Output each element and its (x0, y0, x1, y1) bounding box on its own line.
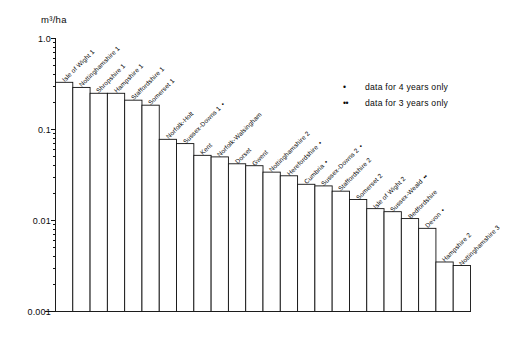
bar (194, 155, 211, 311)
bar (401, 219, 418, 312)
bar (159, 139, 176, 311)
bar (177, 144, 194, 312)
y-tick-marks (51, 39, 56, 312)
bar (453, 266, 470, 312)
bar (107, 93, 124, 311)
bar (436, 262, 453, 312)
bar (280, 176, 297, 312)
legend-label-4yr: data for 4 years only (365, 79, 448, 95)
bar (332, 191, 349, 311)
bar (367, 209, 384, 312)
bar (349, 200, 366, 312)
legend-item: •• data for 3 years only (343, 95, 448, 111)
bar (298, 184, 315, 311)
bar (142, 105, 159, 311)
y-tick-label: 0.001 (27, 307, 51, 317)
chart-root: m³/ha 1.00.10.010.001 Isle of Wight 1Not… (0, 0, 519, 339)
bar (90, 93, 107, 311)
bar (263, 172, 280, 311)
bar (315, 186, 332, 312)
legend: • data for 4 years only •• data for 3 ye… (343, 79, 448, 111)
y-tick-label: 0.1 (38, 125, 51, 135)
bar (211, 157, 228, 312)
bar (384, 212, 401, 312)
legend-marker-4yr: • (343, 79, 365, 95)
chart-canvas (0, 0, 519, 339)
bar (246, 166, 263, 312)
y-tick-label: 0.01 (33, 216, 51, 226)
bar (73, 87, 90, 311)
y-tick-label: 1.0 (38, 34, 51, 44)
bar (56, 82, 73, 311)
legend-label-3yr: data for 3 years only (365, 95, 448, 111)
legend-marker-3yr: •• (343, 95, 365, 111)
legend-item: • data for 4 years only (343, 79, 448, 95)
bar (228, 164, 245, 312)
bar (419, 228, 436, 311)
bar (125, 100, 142, 311)
